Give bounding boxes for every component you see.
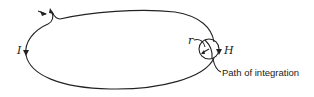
radius-label: r: [188, 34, 194, 47]
field-label: H: [223, 44, 234, 57]
kink-arrow-up-icon: [49, 8, 54, 14]
path-of-integration-label: Path of integration: [222, 67, 299, 78]
field-arrow-icon: [216, 49, 222, 55]
current-loop-diagram: I r H Path of integration: [0, 0, 314, 97]
current-label: I: [16, 44, 22, 57]
current-arrow-icon: [23, 50, 29, 56]
radius-arrow-icon: [201, 50, 205, 54]
loop-wire: [26, 10, 214, 89]
current-loop: [23, 8, 214, 89]
path-leader-line: [213, 59, 221, 72]
